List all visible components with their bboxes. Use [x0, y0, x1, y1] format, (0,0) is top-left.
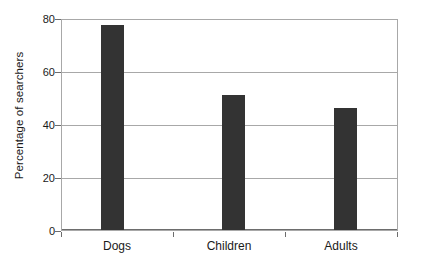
x-tick-mark-left: [61, 232, 62, 237]
y-tick-label-80: 80: [15, 13, 55, 25]
plot-area: [61, 19, 398, 231]
y-tick-label-60: 60: [15, 66, 55, 78]
y-tick-label-20: 20: [15, 172, 55, 184]
x-category-label-adults: Adults: [324, 239, 357, 253]
y-axis-title: Percentage of searchers: [8, 0, 30, 231]
bar-children: [222, 95, 245, 230]
x-tick-mark-1: [173, 232, 174, 237]
y-tick-label-0: 0: [15, 225, 55, 237]
x-category-label-children: Children: [207, 239, 252, 253]
bar-dogs: [101, 25, 124, 230]
y-tick-label-40: 40: [15, 119, 55, 131]
x-tick-mark-2: [285, 232, 286, 237]
x-category-label-dogs: Dogs: [103, 239, 131, 253]
bar-adults: [334, 108, 357, 230]
x-tick-mark-right: [397, 232, 398, 237]
bar-chart: Percentage of searchers 80 60 40 20 0 Do…: [0, 0, 421, 268]
